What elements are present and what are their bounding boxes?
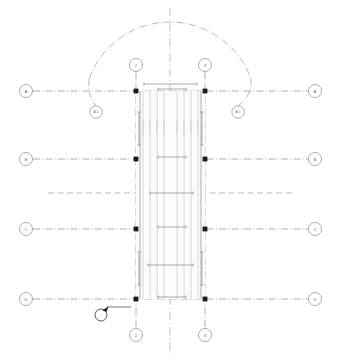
column-node-3 <box>203 157 208 162</box>
shaft-fill <box>136 91 205 299</box>
bubble-label: B <box>25 157 28 162</box>
radius-bubble-1[interactable]: A.1 <box>232 106 244 118</box>
radius-bubble-0[interactable]: A.1 <box>90 106 102 118</box>
bubble-label: D <box>24 297 27 302</box>
bubble-label: B <box>314 157 317 162</box>
column-node-4 <box>134 227 139 232</box>
grid-bubble-D-right[interactable]: D <box>308 293 322 306</box>
grid-bubble-2-top[interactable]: 2 <box>130 59 143 73</box>
grid-bubble-3-bottom[interactable]: 3 <box>199 328 212 342</box>
column-node-0 <box>134 89 139 94</box>
grid-bubble-A-right[interactable]: A <box>308 85 322 98</box>
bubble-label: A.1 <box>235 110 240 114</box>
drawing-canvas: AABBCCDD 2233 A.1A.1 <box>0 0 337 362</box>
column-node-5 <box>203 227 208 232</box>
bubble-label: D <box>313 297 316 302</box>
grid-bubble-A-left[interactable]: A <box>20 85 34 98</box>
bubble-label: C <box>24 227 27 232</box>
structural-grid-plan: AABBCCDD 2233 A.1A.1 <box>0 0 337 362</box>
grid-bubble-D-left[interactable]: D <box>20 293 34 306</box>
grid-bubble-B-left[interactable]: B <box>20 153 34 166</box>
bubble-label: A.1 <box>93 110 98 114</box>
bubble-label: A <box>314 89 317 94</box>
column-node-1 <box>203 89 208 94</box>
column-node-6 <box>134 297 139 302</box>
grid-bubble-C-right[interactable]: C <box>308 223 322 236</box>
bubble-label: A <box>25 89 28 94</box>
grid-bubble-C-left[interactable]: C <box>20 223 34 236</box>
column-node-7 <box>203 297 208 302</box>
bubble-label: C <box>313 227 316 232</box>
grid-bubble-B-right[interactable]: B <box>308 153 322 166</box>
grid-bubble-3-top[interactable]: 3 <box>199 59 212 73</box>
stair-shaft <box>136 91 205 299</box>
column-node-2 <box>134 157 139 162</box>
grid-bubble-2-bottom[interactable]: 2 <box>130 328 143 342</box>
